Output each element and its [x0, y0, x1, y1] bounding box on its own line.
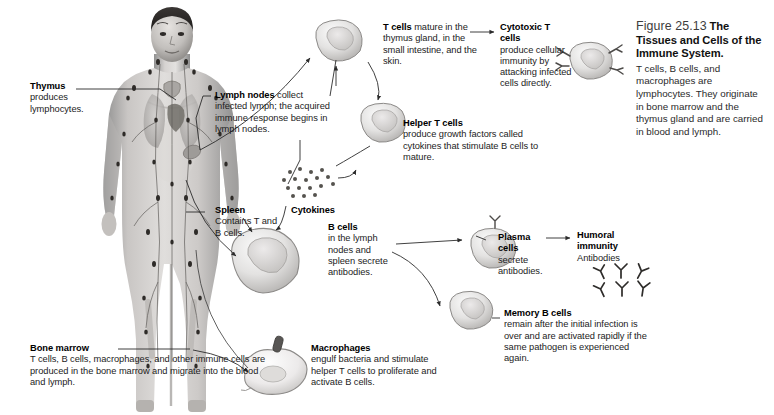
helper-t-cells-lead: Helper T cells: [403, 118, 463, 128]
arrow-bcell-to-memory: [392, 252, 440, 306]
cytokines-lead: Cytokines: [291, 205, 335, 215]
leader-lymph-nodes-a: [196, 96, 211, 150]
macrophages-lead: Macrophages: [311, 343, 370, 353]
arrow-tcell-to-helper: [368, 62, 379, 100]
callout-spleen: Spleen Contains T and B cells.: [215, 205, 277, 239]
bone-marrow-lead: Bone marrow: [30, 343, 89, 353]
figure-caption: Figure 25.13 The Tissues and Cells of th…: [636, 20, 768, 138]
bone-marrow-body: T cells, B cells, macrophages, and other…: [30, 354, 265, 387]
leader-lymph-nodes-b: [288, 140, 300, 184]
callout-cytokines: Cytokines: [291, 205, 361, 216]
callout-cytotoxic-t-cells: Cytotoxic T cells produce cellular immun…: [500, 22, 572, 90]
thymus-body: produces lymphocytes.: [30, 92, 84, 113]
b-cells-body: in the lymph nodes and spleen secrete an…: [328, 233, 388, 277]
leader-helper-to-cytokines: [336, 146, 370, 166]
t-cells-lead: T cells: [383, 22, 412, 32]
callout-humoral-immunity: Humoral immunity Antibodies: [577, 230, 647, 264]
callout-macrophages: Macrophages engulf bacteria and stimulat…: [311, 343, 439, 388]
macrophages-body: engulf bacteria and stimulate helper T c…: [311, 354, 437, 387]
leader-plasma: [476, 236, 486, 240]
figure-body: T cells, B cells, and macrophages are ly…: [636, 63, 768, 139]
cytotoxic-t-cells-lead: Cytotoxic T cells: [500, 22, 550, 43]
lymph-nodes-lead: Lymph nodes: [215, 90, 275, 100]
plasma-cells-lead: Plasma cells: [498, 232, 530, 253]
callout-helper-t-cells: Helper T cells produce growth factors ca…: [403, 118, 545, 163]
immune-system-figure: Thymus produces lymphocytes. Lymph nodes…: [0, 0, 774, 415]
cytotoxic-t-cells-body: produce cellular immunity by attacking i…: [500, 45, 571, 89]
arrow-cytokines-feedback: [338, 170, 356, 178]
thymus-lead: Thymus: [30, 81, 65, 91]
figure-number: Figure 25.13: [636, 19, 707, 33]
humoral-immunity-lead: Humoral immunity: [577, 230, 618, 251]
callout-t-cells: T cells mature in the thymus gland, in t…: [383, 22, 478, 67]
callout-thymus: Thymus produces lymphocytes.: [30, 81, 108, 115]
spleen-lead: Spleen: [215, 205, 245, 215]
callout-lymph-nodes: Lymph nodes collect infected lymph; the …: [215, 90, 333, 135]
helper-t-cells-body: produce growth factors called cytokines …: [403, 129, 538, 162]
arrow-bcell-to-plasma: [396, 240, 462, 244]
spleen-body: Contains T and B cells.: [215, 216, 277, 237]
callout-b-cells: B cells in the lymph nodes and spleen se…: [328, 222, 394, 278]
callout-plasma-cells: Plasma cells secrete antibodies.: [498, 232, 546, 277]
memory-b-cells-lead: Memory B cells: [504, 308, 572, 318]
callout-memory-b-cells: Memory B cells remain after the initial …: [504, 308, 656, 364]
arrow-cytokines-to-bcell: [276, 206, 286, 230]
humoral-immunity-body: Antibodies: [577, 253, 620, 263]
memory-b-cells-body: remain after the initial infection is ov…: [504, 319, 647, 363]
plasma-cells-body: secrete antibodies.: [498, 255, 542, 276]
b-cells-lead: B cells: [328, 222, 358, 232]
callout-bone-marrow: Bone marrow T cells, B cells, macrophage…: [30, 343, 270, 388]
